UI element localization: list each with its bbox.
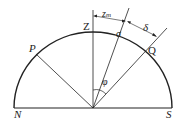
label-q: Q bbox=[148, 45, 156, 56]
label-zm-sub: m bbox=[106, 11, 111, 19]
phi-arc bbox=[93, 90, 106, 95]
delta-arrow-left bbox=[127, 21, 131, 24]
label-phi: φ bbox=[102, 77, 108, 87]
diagram-canvas: Z N S P Q σ δ φ zm bbox=[0, 0, 181, 130]
delta-arrow-right bbox=[152, 33, 157, 37]
p-line bbox=[36, 54, 93, 108]
zm-arrow-left bbox=[93, 15, 97, 18]
label-zm: zm bbox=[102, 9, 111, 19]
q-line bbox=[93, 28, 167, 108]
label-sigma: σ bbox=[116, 29, 121, 39]
label-south: S bbox=[166, 109, 172, 120]
delta-dimension bbox=[128, 22, 156, 36]
label-zenith: Z bbox=[83, 21, 90, 32]
label-north: N bbox=[14, 109, 21, 120]
label-p: P bbox=[29, 43, 36, 54]
sigma-line bbox=[93, 8, 129, 108]
diagram-svg bbox=[0, 0, 181, 130]
label-delta: δ bbox=[143, 22, 148, 33]
